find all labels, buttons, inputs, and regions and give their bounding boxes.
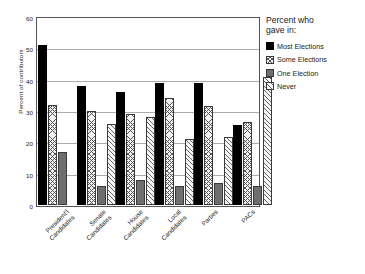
y-tick-label: 0: [3, 203, 33, 210]
plot-area: [36, 17, 260, 207]
bar: [116, 92, 125, 205]
y-tick-label: 50: [3, 46, 33, 53]
legend: Percent who gave in: Most ElectionsSome …: [266, 15, 365, 95]
bar-groups: [38, 19, 258, 205]
legend-items: Most ElectionsSome ElectionsOne Election…: [266, 42, 365, 91]
legend-item[interactable]: Never: [266, 82, 365, 91]
bar: [175, 186, 184, 205]
bar: [107, 124, 116, 205]
bar: [136, 180, 145, 205]
bar-group: [194, 19, 233, 205]
y-tick-label: 10: [3, 171, 33, 178]
y-tick-label: 20: [3, 140, 33, 147]
bar-group: [116, 19, 155, 205]
bar: [38, 45, 47, 205]
bar: [146, 117, 155, 205]
y-tick-label: 30: [3, 109, 33, 116]
bar-group: [155, 19, 194, 205]
bar: [77, 86, 86, 205]
bar: [204, 106, 213, 205]
bar: [58, 152, 67, 205]
bar: [155, 83, 164, 205]
bar: [48, 105, 57, 205]
x-axis-tick-labels: President'lCandidatesSenateCandidatesHou…: [36, 208, 260, 274]
bar: [87, 111, 96, 205]
legend-label: One Election: [277, 69, 318, 78]
bar: [224, 137, 233, 205]
bar: [97, 186, 106, 205]
bar: [263, 77, 272, 205]
bar: [194, 83, 203, 205]
bar: [253, 186, 262, 205]
bar-chart: Percent of contributors 0102030405060 Pr…: [0, 0, 365, 274]
legend-swatch-icon: [266, 69, 274, 77]
bar: [185, 139, 194, 205]
legend-swatch-icon: [266, 56, 274, 64]
bar: [233, 125, 242, 205]
legend-item[interactable]: Most Elections: [266, 42, 365, 51]
legend-item[interactable]: One Election: [266, 69, 365, 78]
legend-swatch-icon: [266, 42, 274, 50]
legend-label: Most Elections: [277, 42, 324, 51]
legend-title-line-1: Percent who: [266, 15, 365, 25]
bar: [243, 122, 252, 205]
bar: [165, 98, 174, 205]
legend-swatch-icon: [266, 82, 274, 90]
bar-group: [38, 19, 77, 205]
legend-item[interactable]: Some Elections: [266, 55, 365, 64]
bar-group: [77, 19, 116, 205]
bar: [214, 183, 223, 205]
legend-title: Percent who gave in:: [266, 15, 365, 36]
y-tick-label: 60: [3, 15, 33, 22]
legend-label: Never: [277, 82, 296, 91]
bar: [126, 114, 135, 205]
y-tick-label: 40: [3, 77, 33, 84]
legend-title-line-2: gave in:: [266, 25, 365, 35]
y-axis-tick-labels: 0102030405060: [0, 17, 33, 207]
legend-label: Some Elections: [277, 55, 327, 64]
